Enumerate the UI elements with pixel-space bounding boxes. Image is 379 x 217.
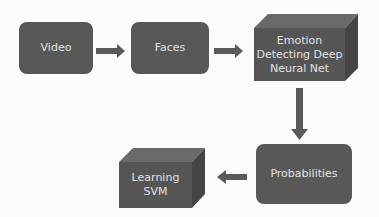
node-dnn: Emotion Detecting Deep Neural Net — [254, 28, 345, 81]
node-faces-label: Faces — [155, 41, 186, 55]
node-dnn-label-line1: Emotion — [277, 34, 322, 48]
dnn-box-top — [254, 14, 358, 28]
node-video: Video — [19, 22, 93, 74]
arrow-dnn-to-probabilities — [291, 88, 308, 140]
node-faces: Faces — [131, 22, 209, 74]
node-probabilities: Probabilities — [256, 144, 352, 204]
node-dnn-label-line2: Detecting Deep — [256, 48, 342, 62]
node-svm-label-line2: SVM — [144, 185, 168, 199]
arrow-probabilities-to-svm — [217, 170, 247, 184]
node-dnn-label-line3: Neural Net — [270, 62, 329, 76]
node-video-label: Video — [41, 41, 72, 55]
arrow-video-to-faces — [96, 44, 125, 58]
node-svm: Learning SVM — [119, 162, 192, 208]
node-svm-label-line1: Learning — [132, 171, 180, 185]
node-probabilities-label: Probabilities — [270, 167, 337, 181]
svm-box-top — [119, 148, 205, 162]
arrow-faces-to-dnn — [214, 44, 243, 58]
